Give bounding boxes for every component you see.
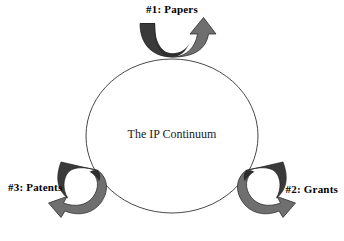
ip-continuum-diagram: #1: Papers #3: Patents #2: Grants The IP… bbox=[0, 0, 344, 241]
continuum-center-label: The IP Continuum bbox=[0, 128, 344, 140]
step-label-papers: #1: Papers bbox=[0, 4, 344, 15]
cycle-diagram-graphic bbox=[0, 0, 344, 241]
patents-arrow-dark-band bbox=[58, 162, 98, 198]
papers-arrow-dark-band bbox=[140, 24, 173, 58]
grants-arrow-dark-band bbox=[246, 162, 286, 198]
step-label-patents: #3: Patents bbox=[8, 182, 62, 193]
papers-arrow-light-segment bbox=[173, 18, 217, 58]
papers-arrow bbox=[140, 18, 216, 58]
step-label-grants: #2: Grants bbox=[286, 184, 338, 195]
